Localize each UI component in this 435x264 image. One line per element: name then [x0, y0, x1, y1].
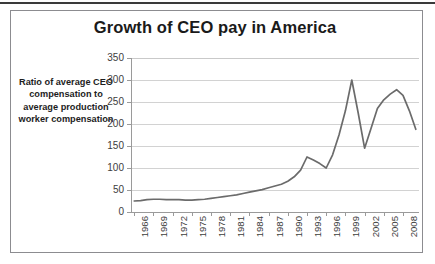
series-polyline: [134, 80, 416, 201]
plot-area: 050100150200250300350 196619691972197519…: [0, 0, 435, 264]
series-line-chart: [0, 0, 435, 264]
